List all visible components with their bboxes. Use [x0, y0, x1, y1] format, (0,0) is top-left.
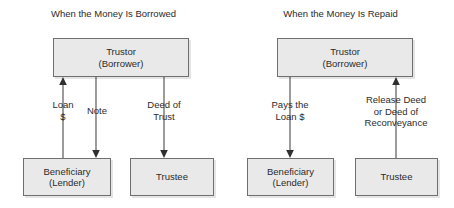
node-trustor-line1: Trustor: [330, 46, 360, 58]
edge-label-deed-of-trust-line2: Trust: [147, 111, 180, 123]
node-trustor-borrowed: Trustor (Borrower): [53, 38, 189, 77]
arrowhead-note-down: [92, 150, 100, 158]
node-trustee-repaid: Trustee: [355, 158, 438, 196]
arrowhead-release-deed-up: [392, 77, 400, 85]
node-beneficiary-repaid: Beneficiary (Lender): [247, 158, 334, 196]
edge-label-loan-line1: Loan: [52, 99, 73, 111]
panel-money-repaid: When the Money Is Repaid Trustor (Borrow…: [227, 0, 454, 208]
edge-label-loan: Loan $: [52, 99, 73, 122]
arrowhead-pays-loan-down: [286, 150, 294, 158]
edge-label-release-deed-line3: Reconveyance: [365, 117, 428, 129]
node-trustor-line1: Trustor: [106, 46, 136, 58]
edge-label-deed-of-trust: Deed of Trust: [147, 99, 180, 122]
edge-label-note-line1: Note: [87, 105, 107, 117]
node-beneficiary-line1: Beneficiary: [267, 166, 314, 178]
arrowhead-loan-up: [59, 77, 67, 85]
edge-label-release-deed-line2: or Deed of: [365, 106, 428, 118]
node-trustor-repaid: Trustor (Borrower): [277, 38, 413, 77]
node-beneficiary-line1: Beneficiary: [44, 166, 91, 178]
node-trustee-line1: Trustee: [156, 171, 188, 183]
panel-money-borrowed: When the Money Is Borrowed Trustor (Borr…: [0, 0, 227, 208]
node-trustee-line1: Trustee: [381, 171, 413, 183]
edge-label-release-deed-line1: Release Deed: [365, 94, 428, 106]
arrowhead-deed-of-trust-down: [160, 150, 168, 158]
edge-label-pays-loan: Pays the Loan $: [272, 99, 309, 122]
node-trustor-line2: (Borrower): [99, 58, 144, 70]
node-trustee-borrowed: Trustee: [130, 158, 214, 196]
edge-label-release-deed: Release Deed or Deed of Reconveyance: [365, 94, 428, 129]
node-trustor-line2: (Borrower): [323, 58, 368, 70]
edge-label-loan-line2: $: [52, 111, 73, 123]
edge-label-pays-loan-line2: Loan $: [272, 111, 309, 123]
node-beneficiary-borrowed: Beneficiary (Lender): [23, 158, 111, 196]
edge-label-deed-of-trust-line1: Deed of: [147, 99, 180, 111]
node-beneficiary-line2: (Lender): [49, 177, 85, 189]
edge-label-pays-loan-line1: Pays the: [272, 99, 309, 111]
edge-label-note: Note: [87, 105, 107, 117]
deed-of-trust-diagram: When the Money Is Borrowed Trustor (Borr…: [0, 0, 454, 208]
node-beneficiary-line2: (Lender): [273, 177, 309, 189]
